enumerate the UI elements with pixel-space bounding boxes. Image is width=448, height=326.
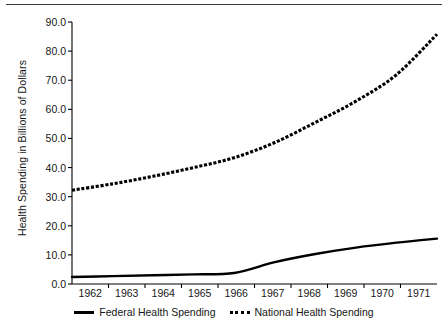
dotted-line-icon — [230, 311, 250, 314]
legend-item-1[interactable]: Federal Health Spending — [74, 306, 215, 318]
legend-item-label: National Health Spending — [255, 306, 374, 318]
x-axis-tick-label: 1971 — [396, 287, 442, 299]
series-line-1 — [72, 239, 437, 277]
series-line-2 — [72, 34, 437, 190]
plot-svg — [0, 0, 448, 326]
data-series-layer — [72, 34, 437, 277]
chart-figure: Health Spending in Billions of Dollars 0… — [0, 0, 448, 326]
chart-legend: Federal Health SpendingNational Health S… — [0, 306, 448, 318]
legend-item-2[interactable]: National Health Spending — [230, 306, 374, 318]
solid-line-icon — [74, 311, 94, 314]
y-axis-ticks — [68, 22, 72, 284]
legend-item-label: Federal Health Spending — [99, 306, 215, 318]
plot-area — [0, 0, 448, 326]
